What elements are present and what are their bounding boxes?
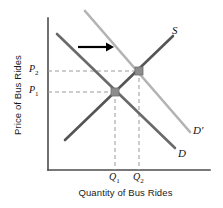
demand-curve-label: D xyxy=(178,147,186,159)
y-tick-label-p2: P2 xyxy=(29,63,39,77)
y-tick-p1-sub: 1 xyxy=(35,90,39,98)
demand-shift-arrow-icon xyxy=(78,43,114,52)
y-tick-p2-sub: 2 xyxy=(35,69,39,77)
equilibrium-point-2 xyxy=(135,67,143,75)
x-tick-q2-sub: 2 xyxy=(140,177,144,185)
y-tick-label-p1: P1 xyxy=(29,84,39,98)
x-tick-q1-sub: 1 xyxy=(116,177,120,185)
supply-demand-figure: Price of Bus Rides Quantity of Bus Rides… xyxy=(0,0,223,208)
x-tick-label-q2: Q2 xyxy=(133,171,144,185)
x-tick-label-q1: Q1 xyxy=(109,171,120,185)
supply-curve-label: S xyxy=(172,24,178,36)
equilibrium-point-1 xyxy=(111,88,119,96)
x-axis-title: Quantity of Bus Rides xyxy=(48,187,203,198)
y-axis-title: Price of Bus Rides xyxy=(12,30,23,160)
demand-shifted-curve-label: D′ xyxy=(193,124,203,136)
